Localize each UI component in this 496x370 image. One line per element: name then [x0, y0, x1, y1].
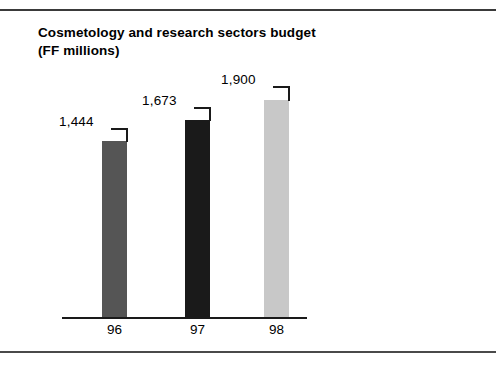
- bar-98: [264, 100, 289, 317]
- x-axis-line: [62, 317, 307, 319]
- bar-value-label-98: 1,900: [221, 72, 256, 87]
- bar-value-label-96: 1,444: [59, 114, 94, 129]
- x-tick-label-97: 97: [185, 322, 210, 337]
- leader-line-vertical-96: [126, 128, 128, 142]
- leader-line-vertical-97: [209, 107, 211, 121]
- bar-value-label-97: 1,673: [142, 93, 177, 108]
- bar-chart-plot-area: 1,444 96 1,673 97 1,900 98: [0, 0, 496, 370]
- leader-line-vertical-98: [288, 86, 290, 101]
- bar-96: [102, 141, 127, 317]
- x-tick-label-96: 96: [102, 322, 127, 337]
- x-tick-label-98: 98: [264, 322, 289, 337]
- bar-97: [185, 120, 210, 317]
- figure-container: Cosmetology and research sectors budget …: [0, 0, 496, 370]
